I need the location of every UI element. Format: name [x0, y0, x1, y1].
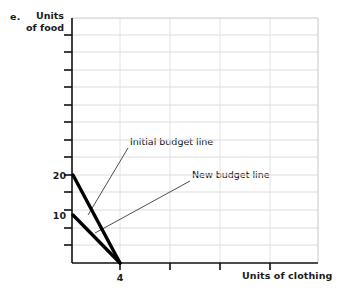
x-axis-ticks	[120, 263, 270, 270]
leader-line-new-budget	[95, 181, 190, 233]
budget-line-figure: e. Units of food Units of clothing 20 10…	[0, 0, 345, 295]
horizontal-gridlines	[72, 35, 318, 245]
leader-line-initial-budget	[88, 148, 128, 215]
plot-svg	[0, 0, 345, 295]
initial-budget-line	[73, 175, 120, 263]
y-axis-ticks	[64, 35, 72, 245]
